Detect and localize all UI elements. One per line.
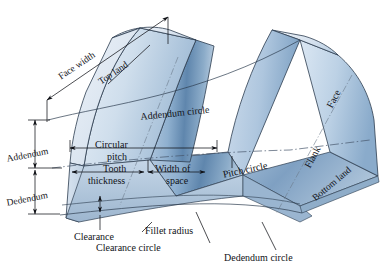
gear-nomenclature-figure: Face width Top land Addendum circle Face… [0, 0, 387, 274]
clearance-circle-leader [196, 212, 210, 243]
fillet-radius-leader [142, 222, 152, 232]
tooth2-flank-surface [228, 30, 300, 175]
gear-body [66, 27, 379, 222]
dedendum-circle-leader [262, 222, 276, 250]
tooth2-face-surface [300, 40, 378, 176]
gear-illustration [0, 0, 387, 274]
